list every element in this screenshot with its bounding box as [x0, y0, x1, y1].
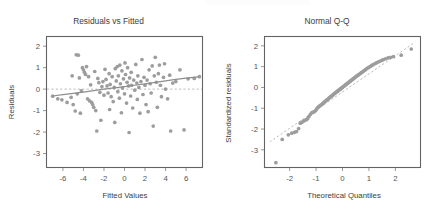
- data-point: [136, 74, 140, 78]
- data-point: [109, 95, 113, 99]
- data-point: [169, 129, 173, 133]
- x-tick-label: -2: [101, 174, 108, 183]
- data-point: [98, 90, 102, 94]
- data-point: [155, 106, 159, 110]
- data-point: [60, 98, 64, 102]
- normal-qq-panel: Normal Q-Q Standardized residuals Theore…: [217, 0, 434, 213]
- data-point: [107, 72, 111, 76]
- plot-frame-left: [47, 37, 203, 168]
- data-point: [99, 118, 103, 122]
- data-point: [274, 161, 278, 165]
- data-point: [145, 78, 149, 82]
- data-point: [140, 58, 144, 62]
- x-axis-label-left: Fitted Values: [103, 191, 148, 200]
- data-point: [102, 93, 106, 97]
- data-point: [113, 121, 117, 125]
- y-tick-label: 2: [36, 42, 40, 51]
- data-point: [134, 63, 138, 67]
- y-axis-label-right: Standardized residuals: [224, 63, 233, 142]
- plot-title-left: Residuals vs Fitted: [73, 16, 144, 26]
- data-point: [70, 74, 74, 78]
- x-tick-label: -4: [80, 174, 88, 183]
- data-point: [116, 74, 120, 78]
- data-point: [147, 68, 151, 72]
- data-point: [94, 109, 98, 113]
- data-point: [56, 97, 60, 101]
- y-tick-label: 0: [254, 83, 259, 92]
- data-point: [87, 75, 91, 79]
- x-tick-label: 0: [340, 174, 345, 183]
- data-point: [151, 124, 155, 128]
- data-point: [168, 73, 172, 77]
- data-point: [152, 74, 156, 78]
- data-point: [100, 85, 104, 89]
- data-point: [182, 128, 186, 132]
- y-tick-label: -3: [251, 146, 258, 155]
- x-tick-label: 1: [367, 174, 371, 183]
- residuals-vs-fitted-svg: Residuals vs Fitted Residuals Fitted Val…: [0, 0, 217, 213]
- data-point: [71, 103, 75, 107]
- data-point: [118, 63, 122, 67]
- data-point: [297, 127, 301, 131]
- data-point: [73, 109, 77, 113]
- data-point: [69, 95, 73, 99]
- diagnostic-plots-figure: Residuals vs Fitted Residuals Fitted Val…: [0, 0, 434, 213]
- data-point: [97, 81, 101, 85]
- y-tick-label: 1: [254, 62, 258, 71]
- x-tick-label: -1: [313, 174, 320, 183]
- y-tick-label: -1: [251, 104, 258, 113]
- y-tick-label: 1: [36, 63, 40, 72]
- data-point: [129, 94, 133, 98]
- data-point: [76, 53, 80, 57]
- data-point: [111, 100, 115, 104]
- y-tick-label: 2: [254, 42, 258, 51]
- y-tick-label: -2: [251, 125, 258, 134]
- data-point: [96, 77, 100, 81]
- data-point: [118, 96, 122, 100]
- x-tick-label: -2: [286, 174, 293, 183]
- data-point: [146, 110, 150, 114]
- data-point: [122, 77, 126, 81]
- y-tick-label: -3: [33, 149, 40, 158]
- data-point: [166, 97, 170, 101]
- data-point: [103, 68, 107, 72]
- y-axis-label-left: Residuals: [7, 85, 16, 119]
- data-point: [159, 83, 163, 87]
- data-point: [119, 82, 123, 86]
- plot-frame-right: [265, 37, 421, 168]
- data-point: [399, 53, 403, 57]
- data-point: [108, 83, 112, 87]
- data-point: [142, 75, 146, 79]
- data-point: [153, 55, 157, 59]
- x-tick-label: 4: [163, 174, 168, 183]
- data-point: [144, 103, 148, 107]
- data-point: [149, 91, 153, 95]
- data-point: [127, 131, 131, 135]
- data-point: [120, 69, 124, 73]
- data-point: [129, 71, 133, 75]
- data-point: [160, 95, 164, 99]
- y-tick-label: -1: [33, 106, 40, 115]
- data-point: [123, 92, 127, 96]
- residuals-vs-fitted-panel: Residuals vs Fitted Residuals Fitted Val…: [0, 0, 217, 213]
- data-point: [65, 101, 69, 105]
- data-point: [126, 66, 130, 70]
- data-point: [101, 80, 105, 84]
- data-point: [163, 62, 167, 66]
- data-point: [158, 63, 162, 67]
- data-point: [106, 91, 110, 95]
- data-point: [123, 61, 127, 65]
- normal-qq-svg: Normal Q-Q Standardized residuals Theore…: [217, 0, 434, 213]
- scatter-points-right: [274, 47, 413, 164]
- data-point: [85, 65, 89, 69]
- data-point: [280, 138, 284, 142]
- data-point: [157, 72, 161, 76]
- x-tick-label: 6: [184, 174, 188, 183]
- data-point: [108, 108, 112, 112]
- data-point: [92, 106, 96, 110]
- data-point: [132, 78, 136, 82]
- data-point: [125, 101, 129, 105]
- data-point: [392, 55, 396, 59]
- data-point: [79, 111, 83, 115]
- data-point: [124, 73, 128, 77]
